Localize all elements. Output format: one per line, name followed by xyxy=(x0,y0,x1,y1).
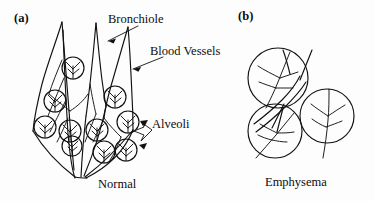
alveolus xyxy=(104,86,126,108)
blood-vessels-leader xyxy=(133,57,163,72)
alveoli-label: Alveoli xyxy=(152,118,190,131)
caption-normal: Normal xyxy=(98,178,136,191)
alveolus xyxy=(44,90,66,112)
alveolus-large xyxy=(248,104,302,158)
alveolus xyxy=(62,136,82,156)
alveolus xyxy=(93,141,115,163)
panel-b-letter: (b) xyxy=(238,10,254,23)
alveoli-leader xyxy=(134,120,152,150)
alveolus-large xyxy=(300,89,354,158)
panel-a-normal-artwork xyxy=(33,22,163,178)
bronchiole-leader xyxy=(108,26,138,44)
caption-emphysema: Emphysema xyxy=(265,176,327,189)
alveolus xyxy=(115,139,137,161)
alveolus xyxy=(117,111,139,133)
lung-diagram-artwork xyxy=(0,0,375,201)
blood-vessels-label: Blood Vessels xyxy=(150,45,220,58)
panel-a-letter: (a) xyxy=(14,12,29,25)
figure-root: (a) (b) Bronchiole Blood Vessels Alveoli… xyxy=(0,0,375,201)
bronchiole-label: Bronchiole xyxy=(108,13,164,26)
panel-b-emphysema-artwork xyxy=(248,48,354,158)
